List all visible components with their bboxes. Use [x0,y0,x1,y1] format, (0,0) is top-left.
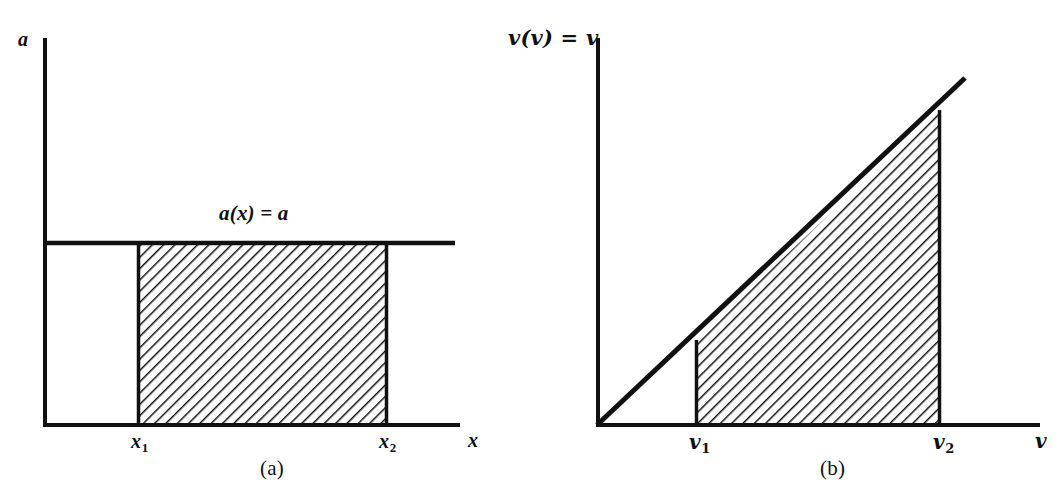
panel-b: v(v) = v v1 v2 v (b) [530,0,1063,496]
x-axis-label-a: x [468,430,478,450]
tick-label-x2: x2 [379,431,396,454]
tick-label-v1-base: v [689,430,701,454]
panel-caption-a: (a) [260,458,284,479]
tick-label-v2: v2 [933,432,954,455]
tick-label-x2-subscript: 2 [389,440,396,455]
panel-a-drawing [0,0,530,496]
tick-label-v1-subscript: 1 [701,441,711,456]
x-axis-label-b: v [1035,431,1047,451]
y-axis-label-a: a [18,29,28,49]
panel-b-drawing [530,0,1063,496]
tick-label-v2-subscript: 2 [945,441,955,456]
curve-label-a: a(x) = a [219,203,289,224]
shaded-rectangle-a [138,243,387,425]
tick-label-x1-base: x [131,430,141,452]
tick-label-v2-base: v [933,430,945,454]
tick-label-x2-base: x [379,430,389,452]
y-axis-label-b: v(v) = v [508,27,598,48]
tick-label-v1: v1 [689,432,710,455]
figure-root: a a(x) = a x1 x2 x (a) [0,0,1063,496]
panel-caption-b: (b) [820,458,845,479]
shaded-trapezoid-b [696,110,940,425]
tick-label-x1: x1 [131,431,148,454]
tick-label-x1-subscript: 1 [141,440,148,455]
panel-a: a a(x) = a x1 x2 x (a) [0,0,530,496]
